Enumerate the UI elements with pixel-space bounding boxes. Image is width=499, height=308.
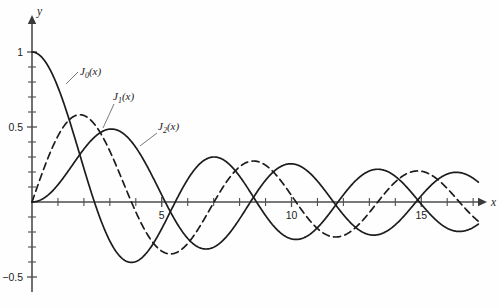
x-tick-label: 10	[286, 209, 298, 221]
x-axis-label: x	[490, 196, 497, 208]
x-axis-arrow	[478, 198, 487, 206]
plot-canvas: 10.5−0.551015xyJ0(x)J1(x)J2(x)	[0, 0, 499, 308]
y-tick-label: 1	[17, 46, 23, 58]
y-tick-label: −0.5	[2, 271, 23, 283]
curve-annotation-j0: J0(x)	[80, 65, 101, 80]
x-tick-label: 5	[159, 209, 165, 221]
leader-line-j1	[103, 104, 114, 128]
axis-layer	[27, 15, 487, 292]
y-axis-arrow	[28, 15, 36, 24]
y-tick-label: 0.5	[8, 121, 23, 133]
curve-annotation-j1: J1(x)	[113, 90, 134, 105]
curve-j0x	[32, 52, 478, 262]
leader-line-j2	[140, 133, 157, 146]
curve-layer	[32, 52, 478, 262]
bessel-function-figure: 10.5−0.551015xyJ0(x)J1(x)J2(x)	[0, 0, 499, 308]
x-tick-label: 15	[415, 209, 427, 221]
leader-line-j0	[66, 72, 78, 84]
curve-j2x	[32, 129, 478, 249]
curve-j1x	[32, 115, 478, 254]
y-axis-label: y	[36, 5, 43, 18]
curve-annotation-j2: J2(x)	[158, 120, 179, 135]
